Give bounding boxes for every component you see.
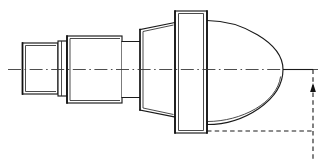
end-stud-fill <box>23 43 59 94</box>
part-drawing <box>0 0 325 163</box>
collar-flange <box>175 11 207 133</box>
stud-shoulder-fill <box>58 41 67 96</box>
end-stud <box>23 43 59 94</box>
technical-drawing-canvas: Mechanical part side elevation Engineeri… <box>0 0 325 163</box>
stud-shoulder <box>58 41 67 96</box>
collar-flange-fill <box>175 11 207 133</box>
